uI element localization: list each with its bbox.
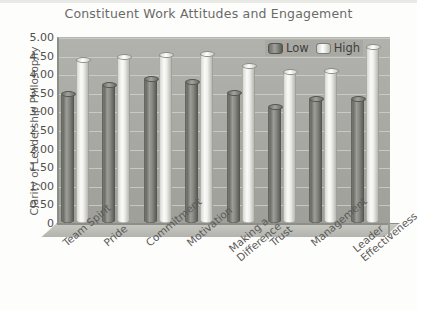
bar-cap <box>227 90 242 96</box>
y-tick-label: 1.00 <box>18 181 54 192</box>
legend-swatch-high-icon <box>316 43 331 54</box>
paper-edge <box>0 0 417 3</box>
bar-low[interactable] <box>61 93 74 223</box>
bar-cap <box>283 69 298 75</box>
bar-high[interactable] <box>366 46 379 223</box>
legend-label-high: High <box>334 41 360 55</box>
legend-swatch-low-icon <box>268 43 283 54</box>
bar-series-container <box>57 37 388 223</box>
legend-item-low[interactable]: Low <box>268 41 309 55</box>
bar-cap <box>185 79 200 85</box>
bar-group <box>268 37 309 223</box>
bar-cap <box>242 63 257 69</box>
y-tick-label: 0 <box>18 218 54 229</box>
legend-item-high[interactable]: High <box>316 41 360 55</box>
y-tick-label: 2.50 <box>18 125 54 136</box>
bar-low[interactable] <box>144 78 157 223</box>
bar-cap <box>76 57 91 63</box>
bar-group <box>351 37 392 223</box>
chart-title: Constituent Work Attitudes and Engagemen… <box>0 6 417 21</box>
bar-low[interactable] <box>309 98 322 223</box>
bar-high[interactable] <box>159 54 172 223</box>
y-tick-label: 3.50 <box>18 88 54 99</box>
bar-group <box>309 37 350 223</box>
chart-legend: Low High <box>265 40 363 56</box>
bar-cap <box>102 82 117 88</box>
y-tick-label: 1.50 <box>18 162 54 173</box>
bar-high[interactable] <box>117 56 130 223</box>
bar-high[interactable] <box>76 59 89 223</box>
bar-cap <box>309 96 324 102</box>
y-tick-label: 3.00 <box>18 106 54 117</box>
bar-low[interactable] <box>227 92 240 223</box>
bar-cap <box>200 51 215 57</box>
bar-high[interactable] <box>324 70 337 223</box>
x-axis-tick-labels: Team SpiritPrideCommitmentMotivationMaki… <box>0 236 417 310</box>
bar-group <box>227 37 268 223</box>
y-tick-label: 5.00 <box>18 32 54 43</box>
bar-cap <box>61 91 76 97</box>
y-tick-label: 0.50 <box>18 199 54 210</box>
bar-high[interactable] <box>242 65 255 223</box>
bar-cap <box>159 52 174 58</box>
bar-cap <box>351 96 366 102</box>
bar-cap <box>366 44 381 50</box>
y-axis-tick-labels: 5.004.504.003.503.002.502.001.501.000.50… <box>18 31 54 229</box>
y-tick-label: 2.00 <box>18 144 54 155</box>
bar-group <box>102 37 143 223</box>
y-tick-label: 4.00 <box>18 69 54 80</box>
bar-group <box>185 37 226 223</box>
bar-cap <box>144 76 159 82</box>
bar-cap <box>324 68 339 74</box>
y-tick-label: 4.50 <box>18 51 54 62</box>
bar-cap <box>268 104 283 110</box>
legend-label-low: Low <box>286 41 309 55</box>
bar-group <box>144 37 185 223</box>
bar-cap <box>117 54 132 60</box>
bar-high[interactable] <box>200 53 213 223</box>
bar-group <box>61 37 102 223</box>
